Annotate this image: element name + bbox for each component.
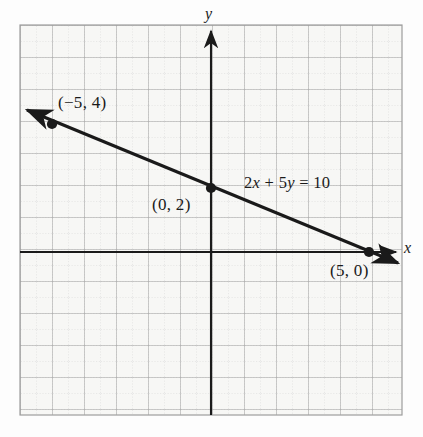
coordinate-plane: [0, 0, 423, 437]
y-axis-label: y: [205, 6, 212, 22]
point-marker-c: [364, 247, 374, 257]
equation-equals: =: [295, 173, 313, 192]
point-marker-a: [47, 119, 57, 129]
graph-figure: (−5, 4) (0, 2) (5, 0) 2x + 5y = 10 y x: [0, 0, 423, 437]
equation-coef-x: 2: [244, 173, 253, 192]
point-marker-b: [206, 183, 216, 193]
equation-label: 2x + 5y = 10: [244, 175, 330, 192]
equation-coef-y: 5: [279, 173, 288, 192]
equation-var-y: y: [287, 173, 295, 192]
equation-plus: +: [260, 173, 278, 192]
x-axis-label: x: [404, 240, 411, 256]
point-label-5-0: (5, 0): [330, 262, 369, 279]
point-label-0-2: (0, 2): [152, 196, 191, 213]
equation-constant: 10: [313, 173, 330, 192]
point-label-minus5-4: (−5, 4): [58, 94, 107, 111]
